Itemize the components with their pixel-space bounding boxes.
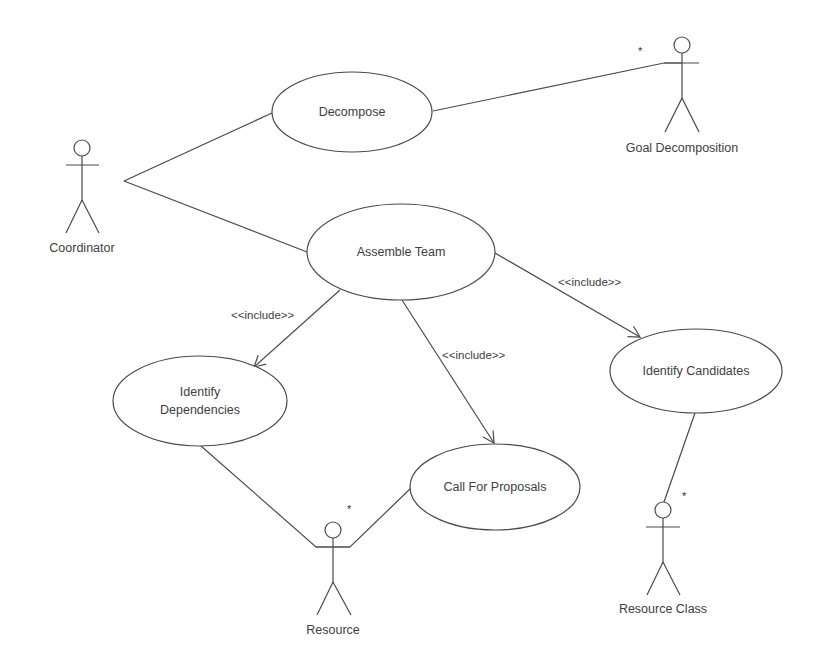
use-case-label: Decompose bbox=[319, 105, 386, 119]
stick-figure-icon[interactable] bbox=[316, 522, 351, 615]
use-case-label-line2: Dependencies bbox=[160, 403, 240, 417]
use-case-decompose[interactable]: Decompose bbox=[272, 72, 432, 152]
stick-figure-icon[interactable] bbox=[646, 502, 680, 595]
use-case-identify-candidates[interactable]: Identify Candidates bbox=[610, 329, 782, 413]
use-case-assemble-team[interactable]: Assemble Team bbox=[307, 204, 495, 300]
assoc-coordinator-decompose bbox=[124, 113, 272, 181]
assoc-coordinator-assemble-team bbox=[124, 181, 307, 252]
include-arrow-call-for-proposals bbox=[402, 300, 494, 443]
assoc-decompose-goal-decomposition bbox=[433, 63, 682, 111]
multiplicity-label: * bbox=[347, 503, 352, 515]
include-arrow-identify-dependencies bbox=[254, 290, 340, 367]
assoc-identify-candidates-resource-class bbox=[664, 413, 695, 502]
use-case-label: Assemble Team bbox=[357, 245, 446, 259]
assoc-identify-dependencies-resource bbox=[201, 446, 333, 547]
actor-label: Goal Decomposition bbox=[626, 141, 739, 155]
actor-resource-class[interactable]: Resource Class * bbox=[619, 490, 707, 616]
use-case-label: Call For Proposals bbox=[444, 480, 547, 494]
include-label-call-for-proposals: <<include>> bbox=[442, 349, 506, 361]
actor-goal-decomposition[interactable]: Goal Decomposition * bbox=[626, 37, 739, 155]
use-case-label-line1: Identify bbox=[180, 385, 221, 399]
assoc-call-for-proposals-resource bbox=[333, 488, 411, 547]
use-case-ellipse[interactable] bbox=[113, 356, 287, 446]
actor-resource[interactable]: Resource * bbox=[306, 503, 360, 637]
actor-label: Resource Class bbox=[619, 602, 707, 616]
include-arrow-identify-candidates bbox=[495, 253, 640, 337]
stick-figure-icon[interactable] bbox=[664, 37, 699, 132]
multiplicity-label: * bbox=[638, 45, 643, 57]
include-label-identify-candidates: <<include>> bbox=[558, 276, 622, 288]
stick-figure-icon[interactable] bbox=[66, 140, 99, 233]
actor-label: Coordinator bbox=[49, 241, 114, 255]
include-label-identify-dependencies: <<include>> bbox=[231, 309, 295, 321]
use-case-diagram: <<include>> <<include>> <<include>> Deco… bbox=[0, 0, 818, 665]
actor-coordinator[interactable]: Coordinator bbox=[49, 140, 114, 255]
use-case-call-for-proposals[interactable]: Call For Proposals bbox=[410, 444, 580, 530]
multiplicity-label: * bbox=[682, 490, 687, 502]
use-case-identify-dependencies[interactable]: Identify Dependencies bbox=[113, 356, 287, 446]
use-case-label: Identify Candidates bbox=[642, 364, 749, 378]
actor-label: Resource bbox=[306, 623, 360, 637]
